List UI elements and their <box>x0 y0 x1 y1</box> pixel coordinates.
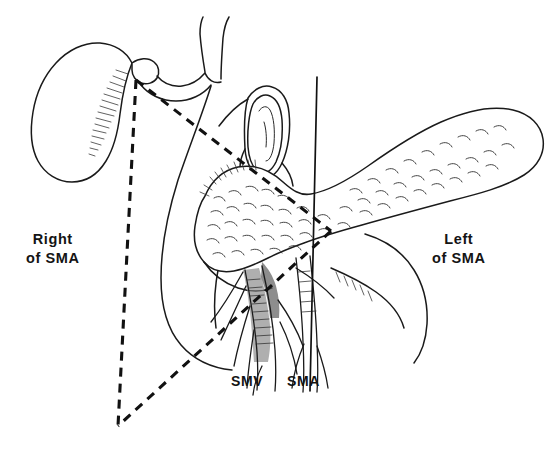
label-left-of-sma: Left of SMA <box>432 230 486 268</box>
duodenal-bulb <box>132 59 211 101</box>
label-smv: SMV <box>231 372 263 390</box>
anatomy-illustration <box>0 0 555 449</box>
gallbladder <box>31 43 132 182</box>
common-bile-duct <box>200 17 229 83</box>
label-right-of-sma: Right of SMA <box>26 230 80 268</box>
label-sma: SMA <box>287 372 320 390</box>
anatomical-figure: Right of SMA Left of SMA SMV SMA <box>0 0 555 449</box>
